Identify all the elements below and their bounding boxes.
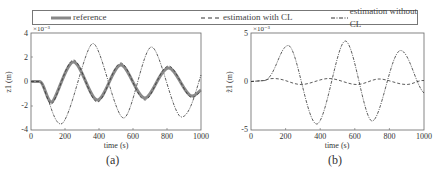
svg-text:600: 600: [349, 132, 361, 141]
svg-text:0: 0: [24, 77, 28, 86]
panel-b: 5 0 -5 ×10⁻³ 0 200 400 600 800 1000 time…: [225, 25, 432, 150]
x-axis-label-b: time (s): [325, 141, 350, 150]
tick-marks-b: [251, 82, 389, 131]
y-axis-label-b: z̃1 (m): [225, 71, 234, 92]
svg-text:4: 4: [24, 29, 28, 38]
chart-canvas: 4 2 0 -2 -4 ×10⁻³ 0 200 400 600 800 1000…: [0, 0, 444, 177]
y-ticks-a: 4 2 0 -2 -4: [21, 29, 28, 134]
series-without-cl-b: [251, 41, 424, 124]
series-without-cl-a: [31, 44, 201, 125]
x-ticks-a: 0 200 400 600 800 1000: [29, 132, 209, 141]
svg-text:1000: 1000: [416, 132, 432, 141]
svg-text:800: 800: [383, 132, 395, 141]
caption-b: (b): [328, 153, 342, 168]
plot-frame-a: [31, 33, 201, 130]
y-axis-label-a: z1 (m): [4, 71, 13, 92]
svg-text:2: 2: [24, 53, 28, 62]
svg-text:1000: 1000: [193, 132, 209, 141]
svg-text:-2: -2: [21, 101, 28, 110]
y-ticks-b: 5 0 -5: [241, 29, 248, 134]
tick-marks-a: [31, 57, 167, 130]
svg-text:0: 0: [29, 132, 33, 141]
x-axis-label-a: time (s): [104, 141, 129, 150]
svg-text:200: 200: [280, 132, 292, 141]
caption-a: (a): [106, 153, 119, 168]
scale-note-b: ×10⁻³: [253, 25, 270, 33]
svg-text:800: 800: [161, 132, 173, 141]
svg-text:0: 0: [244, 77, 248, 86]
svg-text:600: 600: [127, 132, 139, 141]
svg-text:0: 0: [249, 132, 253, 141]
series-reference-a: [31, 62, 201, 102]
svg-text:-4: -4: [21, 125, 28, 134]
svg-text:400: 400: [93, 132, 105, 141]
scale-note-a: ×10⁻³: [33, 25, 50, 33]
svg-text:-5: -5: [241, 125, 248, 134]
svg-text:5: 5: [244, 29, 248, 38]
plot-frame-b: [251, 33, 424, 130]
series-with-cl-b: [251, 79, 424, 85]
panel-a: 4 2 0 -2 -4 ×10⁻³ 0 200 400 600 800 1000…: [4, 25, 209, 150]
svg-text:200: 200: [59, 132, 71, 141]
x-ticks-b: 0 200 400 600 800 1000: [249, 132, 432, 141]
svg-text:400: 400: [314, 132, 326, 141]
